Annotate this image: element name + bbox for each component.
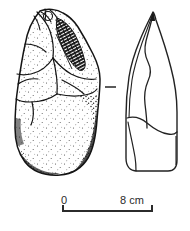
scale-bar-end-label: 8 cm	[120, 194, 144, 206]
scale-bar-start-label: 0	[61, 194, 67, 206]
lithic-figure: 0 8 cm	[0, 0, 190, 231]
artifact-drawing	[0, 0, 190, 231]
